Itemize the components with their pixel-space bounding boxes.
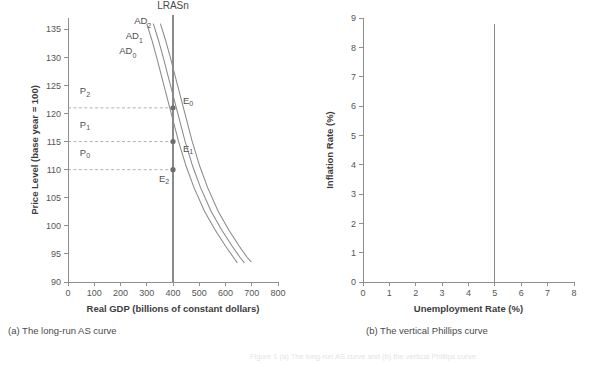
equilibrium-point-e0 [170,105,175,110]
y-axis-title: Price Level (base year = 100) [29,85,40,215]
page-bleed-text: Figure 1 (a) The long-run AS curve and (… [250,352,590,361]
y-tick-label: 90 [51,277,61,287]
y-tick-label: 0 [351,277,356,287]
x-tick-label: 100 [87,288,102,298]
panel-vertical-phillips-curve: 0123456780123456789Unemployment Rate (%)… [300,0,594,340]
y-tick-label: 95 [51,249,61,259]
y-tick-label: 5 [351,131,356,141]
x-tick-label: 700 [244,288,259,298]
figure-root: P2P1P0AD0AD1AD2LRASnE0E1E201002003004005… [0,0,594,365]
y-tick-label: 110 [47,165,61,175]
y-tick-label: 115 [47,137,61,147]
panel-long-run-as-curve: P2P1P0AD0AD1AD2LRASnE0E1E201002003004005… [0,0,300,340]
price-level-label-p2: P2 [80,85,90,97]
y-tick-label: 2 [351,219,356,229]
equilibrium-label-e0: E0 [183,95,193,107]
curve-label-ad0: AD0 [119,45,136,59]
y-tick-label: 100 [46,221,61,231]
vertical-phillips-chart: 0123456780123456789Unemployment Rate (%)… [300,0,594,320]
long-run-as-chart: P2P1P0AD0AD1AD2LRASnE0E1E201002003004005… [0,0,300,320]
y-tick-label: 120 [46,109,61,119]
curve-ad1 [153,24,244,263]
y-tick-label: 6 [351,101,356,111]
y-tick-label: 1 [351,248,356,258]
panel-a-caption: (a) The long-run AS curve [8,325,117,336]
curve-ad0 [147,24,238,263]
x-tick-label: 0 [360,288,365,298]
x-tick-label: 600 [218,288,233,298]
equilibrium-label-e1: E1 [183,143,193,155]
x-tick-label: 1 [387,288,392,298]
labels-group: P2P1P0AD0AD1AD2LRASnE0E1E201002003004005… [29,0,286,314]
y-tick-label: 105 [46,193,61,203]
labels-group: 0123456780123456789Unemployment Rate (%)… [324,13,577,314]
x-tick-label: 500 [192,288,207,298]
equilibrium-point-e2 [170,167,175,172]
x-tick-label: 2 [413,288,418,298]
price-level-label-p0: P0 [80,147,90,159]
x-tick-label: 200 [113,288,128,298]
y-tick-label: 7 [351,72,356,82]
x-tick-label: 300 [139,288,154,298]
y-axis-title: Inflation Rate (%) [324,111,335,189]
axes-group [359,18,574,286]
x-tick-label: 0 [65,288,70,298]
axis-lines [363,18,574,282]
price-level-label-p1: P1 [80,119,90,131]
x-tick-label: 7 [545,288,550,298]
x-tick-label: 5 [492,288,497,298]
equilibrium-label-e2: E2 [159,173,169,185]
reference-lines-group [68,108,173,170]
x-tick-label: 8 [571,288,576,298]
y-tick-label: 4 [351,160,356,170]
x-tick-label: 400 [165,288,180,298]
y-tick-label: 125 [46,81,61,91]
equilibrium-point-e1 [170,139,175,144]
x-tick-label: 3 [440,288,445,298]
curves-group [147,15,251,282]
lras-curve-label: LRASn [157,0,189,11]
y-tick-label: 130 [46,53,61,63]
x-tick-label: 6 [519,288,524,298]
y-tick-label: 9 [351,13,356,23]
curve-label-ad2: AD2 [134,15,151,29]
curve-label-ad1: AD1 [126,30,143,44]
x-tick-label: 4 [466,288,471,298]
x-tick-label: 800 [270,288,285,298]
y-tick-label: 3 [351,189,356,199]
panel-b-caption: (b) The vertical Phillips curve [366,325,488,336]
x-axis-title: Real GDP (billions of constant dollars) [87,303,260,314]
x-axis-title: Unemployment Rate (%) [414,303,523,314]
y-tick-label: 8 [351,43,356,53]
y-tick-label: 135 [46,24,61,34]
